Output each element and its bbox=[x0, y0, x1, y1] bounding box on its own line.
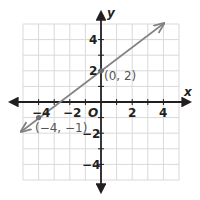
x-tick-label: 4 bbox=[159, 106, 167, 120]
coordinate-plane: x y O −4 −2 2 4 4 2 −2 −4 (0, 2) (−4, −1… bbox=[0, 0, 200, 200]
x-tick-label: 2 bbox=[128, 106, 136, 120]
point-0-2 bbox=[98, 68, 103, 73]
y-tick-label: 4 bbox=[89, 33, 97, 47]
y-axis-label: y bbox=[107, 6, 116, 20]
x-tick-label: −2 bbox=[63, 106, 81, 120]
x-axis-label: x bbox=[183, 85, 193, 99]
x-tick-label: −4 bbox=[32, 106, 50, 120]
point-label-neg4-neg1: (−4, −1) bbox=[35, 121, 87, 135]
y-tick-label: −4 bbox=[82, 158, 100, 172]
point-label-0-2: (0, 2) bbox=[104, 69, 136, 83]
y-tick-label: 2 bbox=[89, 64, 97, 78]
origin-label: O bbox=[88, 106, 98, 120]
